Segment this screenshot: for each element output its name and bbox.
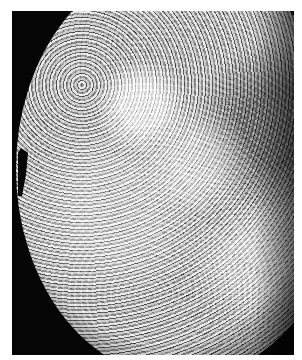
limb-shadow bbox=[16, 11, 294, 355]
planet-disk bbox=[16, 11, 294, 355]
photo-frame bbox=[12, 11, 294, 355]
terminator-shadow bbox=[254, 11, 294, 355]
